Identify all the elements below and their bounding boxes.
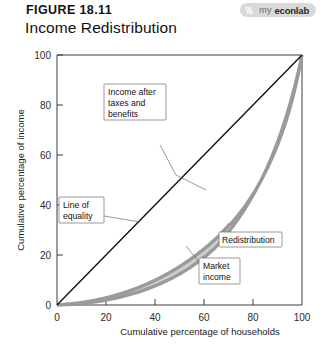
x-tick-label: 40 bbox=[149, 312, 161, 323]
annotation-line: income bbox=[203, 272, 231, 282]
figure-number: FIGURE 18.11 bbox=[26, 3, 112, 17]
annotation-line: Market bbox=[203, 261, 230, 271]
logo-suffix-text: econlab bbox=[275, 5, 310, 16]
annotation-line: Income after bbox=[108, 87, 156, 97]
lorenz-curve-chart: 100 80 60 40 20 0 0 20 40 60 80 100 Cumu… bbox=[0, 40, 324, 340]
x-axis-ticks bbox=[106, 299, 253, 305]
y-tick-label: 100 bbox=[34, 50, 51, 61]
myeconlab-mark-icon bbox=[245, 6, 256, 15]
caption-strip bbox=[0, 332, 324, 346]
x-tick-label: 80 bbox=[247, 312, 259, 323]
y-tick-label: 40 bbox=[40, 200, 52, 211]
y-axis-ticks bbox=[57, 55, 63, 255]
y-axis-title: Cumulative percentage of income bbox=[15, 109, 26, 251]
annotation-income-after-taxes: Income after taxes and benefits bbox=[104, 84, 206, 190]
annotation-line: Redistribution bbox=[222, 235, 275, 245]
y-tick-label: 60 bbox=[40, 150, 52, 161]
x-tick-label: 60 bbox=[198, 312, 210, 323]
chart-svg: 100 80 60 40 20 0 0 20 40 60 80 100 Cumu… bbox=[0, 40, 324, 340]
x-tick-label: 100 bbox=[294, 312, 311, 323]
annotation-line: equality bbox=[63, 211, 93, 221]
y-tick-label: 20 bbox=[40, 250, 52, 261]
annotation-line: Line of bbox=[63, 200, 89, 210]
annotation-line: taxes and bbox=[108, 98, 145, 108]
x-tick-label: 20 bbox=[100, 312, 112, 323]
x-tick-label: 0 bbox=[54, 312, 60, 323]
y-tick-label: 80 bbox=[40, 100, 52, 111]
myeconlab-logo[interactable]: my econlab bbox=[240, 3, 316, 17]
annotation-line-of-equality: Line of equality bbox=[59, 197, 140, 223]
logo-prefix-text: my bbox=[259, 5, 272, 15]
y-tick-label: 0 bbox=[45, 300, 51, 311]
annotation-line: benefits bbox=[108, 109, 138, 119]
page-title: Income Redistribution bbox=[25, 19, 177, 37]
